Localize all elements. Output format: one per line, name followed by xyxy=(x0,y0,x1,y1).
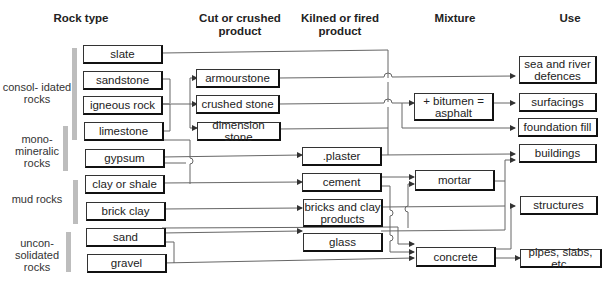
rock-sand: sand xyxy=(86,228,166,247)
product-crushed-stone: crushed stone xyxy=(196,95,280,114)
use-foundation-fill: foundation fill xyxy=(518,118,598,137)
rock-gravel: gravel xyxy=(87,254,167,273)
use-structures: structures xyxy=(520,196,598,215)
mixture-asphalt: + bitumen = asphalt xyxy=(414,93,494,121)
use-sea-defences: sea and river defences xyxy=(519,56,597,84)
rock-brick-clay: brick clay xyxy=(86,202,166,221)
group-label-consolidated: consol- idated rocks xyxy=(2,81,72,105)
product-glass: glass xyxy=(303,233,383,252)
product-cement: cement xyxy=(302,173,382,192)
header-rock-type: Rock type xyxy=(36,12,126,25)
group-bar-unconsolidated xyxy=(66,232,71,272)
header-kilned-fired: Kilned or fired product xyxy=(298,12,382,38)
product-dimension-stone: dimension stone xyxy=(197,122,281,141)
product-plaster: .plaster xyxy=(302,147,382,166)
use-buildings: buildings xyxy=(519,144,597,163)
use-pipes: pipes, slabs, etc. xyxy=(520,249,602,268)
rock-sandstone: sandstone xyxy=(83,71,163,90)
use-surfacings: surfacings xyxy=(519,93,597,112)
rock-limestone: limestone xyxy=(84,122,164,141)
mixture-mortar: mortar xyxy=(415,170,495,191)
mixture-concrete: concrete xyxy=(416,247,496,267)
group-label-monomineralic: mono- mineralic rocks xyxy=(2,133,72,169)
group-bar-mud xyxy=(73,180,78,224)
header-cut-crushed: Cut or crushed product xyxy=(190,12,290,38)
group-bar-monomineralic xyxy=(63,126,68,171)
header-use: Use xyxy=(540,12,600,25)
rock-products-diagram: Rock type Cut or crushed product Kilned … xyxy=(0,0,614,282)
product-bricks: bricks and clay products xyxy=(303,199,383,227)
product-armourstone: armourstone xyxy=(196,69,280,88)
group-label-unconsolidated: uncon- solidated rocks xyxy=(2,237,72,273)
rock-igneous: igneous rock xyxy=(83,96,163,115)
rock-gypsum: gypsum xyxy=(85,149,165,168)
group-bar-consolidated xyxy=(72,48,77,140)
rock-clay-shale: clay or shale xyxy=(85,175,165,194)
rock-slate: slate xyxy=(83,45,163,64)
header-mixture: Mixture xyxy=(420,12,490,25)
group-label-mud: mud rocks xyxy=(2,193,72,205)
